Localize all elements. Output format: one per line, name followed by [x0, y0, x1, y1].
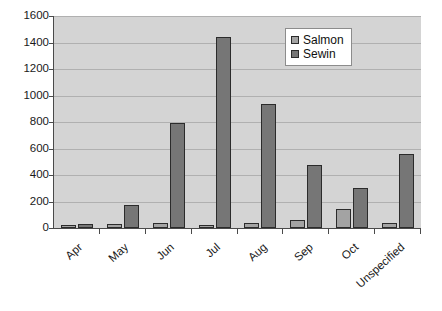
x-axis-tick-label: May: [107, 241, 131, 264]
x-axis-tick-label: Oct: [339, 241, 360, 262]
y-axis-tick-label: 600: [3, 143, 49, 155]
bar-salmon-may: [107, 224, 122, 228]
x-axis-tick-label: Jun: [155, 241, 176, 262]
y-tick-mark: [49, 202, 53, 203]
y-tick-mark: [49, 175, 53, 176]
plot-area: [53, 16, 421, 229]
y-tick-mark: [49, 228, 53, 229]
y-axis-tick-label: 1200: [3, 63, 49, 75]
bar-salmon-aug: [244, 223, 259, 228]
chart-legend: SalmonSewin: [285, 28, 352, 66]
x-tick-mark: [282, 229, 283, 234]
legend-item-sewin: Sewin: [291, 47, 344, 61]
y-axis-tick-label: 400: [3, 169, 49, 181]
bar-salmon-sep: [290, 220, 305, 228]
bar-group: [375, 16, 421, 228]
bar-salmon-jul: [199, 225, 214, 228]
x-axis-tick-label: Sep: [292, 241, 315, 263]
x-tick-mark: [237, 229, 238, 234]
bar-salmon-oct: [336, 209, 351, 228]
x-tick-mark: [328, 229, 329, 234]
bar-chart: 02004006008001000120014001600 SalmonSewi…: [0, 0, 442, 311]
bar-sewin-unspecified: [399, 154, 414, 228]
legend-swatch-icon: [291, 50, 299, 58]
y-tick-mark: [49, 16, 53, 17]
bar-sewin-sep: [307, 165, 322, 228]
bar-sewin-jul: [216, 37, 231, 228]
legend-label: Sewin: [303, 48, 336, 60]
bar-sewin-may: [124, 205, 139, 228]
bar-group: [100, 16, 146, 228]
bar-sewin-aug: [261, 104, 276, 228]
bar-group: [54, 16, 100, 228]
y-tick-mark: [49, 149, 53, 150]
legend-item-salmon: Salmon: [291, 33, 344, 47]
bar-sewin-jun: [170, 123, 185, 228]
y-tick-mark: [49, 43, 53, 44]
y-axis-tick-label: 200: [3, 196, 49, 208]
bar-sewin-apr: [78, 224, 93, 228]
bar-salmon-jun: [153, 223, 168, 228]
bar-group: [146, 16, 192, 228]
x-axis-tick-label: Unspecified: [354, 241, 406, 290]
x-tick-mark: [374, 229, 375, 234]
bar-sewin-oct: [353, 188, 368, 228]
y-tick-mark: [49, 122, 53, 123]
y-axis-tick-label: 0: [3, 222, 49, 234]
bar-salmon-unspecified: [382, 223, 397, 228]
bar-group: [238, 16, 284, 228]
x-tick-mark: [420, 229, 421, 234]
y-axis-tick-label: 1400: [3, 37, 49, 49]
y-axis: 02004006008001000120014001600: [0, 0, 49, 240]
x-tick-mark: [145, 229, 146, 234]
y-axis-tick-label: 1600: [3, 10, 49, 22]
bar-group: [192, 16, 238, 228]
y-tick-mark: [49, 96, 53, 97]
y-axis-tick-label: 800: [3, 116, 49, 128]
x-axis-tick-label: Apr: [64, 241, 85, 262]
x-axis-tick-label: Jul: [204, 241, 223, 259]
bar-salmon-apr: [61, 225, 76, 228]
legend-label: Salmon: [303, 34, 344, 46]
x-tick-mark: [99, 229, 100, 234]
x-axis-tick-label: Aug: [246, 241, 269, 263]
y-tick-mark: [49, 69, 53, 70]
x-tick-mark: [191, 229, 192, 234]
legend-swatch-icon: [291, 36, 299, 44]
y-axis-tick-label: 1000: [3, 90, 49, 102]
